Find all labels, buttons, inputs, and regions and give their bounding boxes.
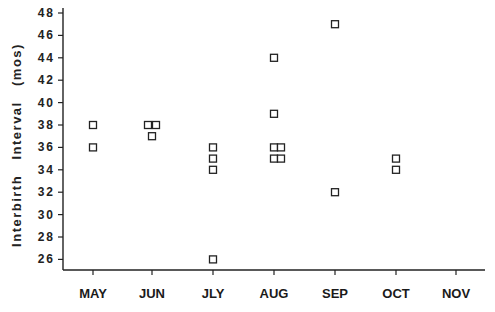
x-tick-label: SEP <box>322 286 348 301</box>
y-tick-label: 28 <box>38 230 55 244</box>
y-tick-label: 44 <box>38 51 55 65</box>
x-tick-label: JUN <box>139 286 165 301</box>
y-tick-label: 36 <box>38 140 55 154</box>
y-axis-title: Interbirth Interval (mos) <box>9 43 24 247</box>
y-tick-label: 48 <box>38 6 55 20</box>
data-point-square <box>393 166 400 173</box>
x-tick-label: NOV <box>442 286 471 301</box>
y-tick-label: 30 <box>38 208 55 222</box>
data-point-square <box>149 133 156 140</box>
data-point-square <box>210 155 217 162</box>
x-tick-label: OCT <box>382 286 410 301</box>
x-tick-label: MAY <box>79 286 107 301</box>
y-tick-label: 34 <box>38 163 55 177</box>
data-point-square <box>271 54 278 61</box>
y-axis: 262830323436384042444648 <box>38 6 63 270</box>
data-point-square <box>332 21 339 28</box>
y-tick-label: 46 <box>38 28 55 42</box>
data-point-square <box>210 166 217 173</box>
x-axis: MAYJUNJLYAUGSEPOCTNOV <box>63 270 485 301</box>
y-tick-label: 40 <box>38 96 55 110</box>
data-point-square <box>393 155 400 162</box>
data-point-square <box>271 155 278 162</box>
data-point-square <box>278 155 285 162</box>
data-point-square <box>153 122 160 129</box>
data-point-square <box>90 144 97 151</box>
data-point-square <box>278 144 285 151</box>
data-points <box>90 21 400 263</box>
y-tick-label: 38 <box>38 118 55 132</box>
y-tick-label: 42 <box>38 73 55 87</box>
data-point-square <box>271 144 278 151</box>
x-tick-label: AUG <box>260 286 289 301</box>
y-tick-label: 26 <box>38 252 55 266</box>
scatter-chart: 262830323436384042444648 MAYJUNJLYAUGSEP… <box>0 0 495 312</box>
data-point-square <box>145 122 152 129</box>
data-point-square <box>210 144 217 151</box>
x-tick-label: JLY <box>202 286 225 301</box>
y-tick-label: 32 <box>38 185 55 199</box>
data-point-square <box>210 256 217 263</box>
data-point-square <box>271 110 278 117</box>
data-point-square <box>90 122 97 129</box>
data-point-square <box>332 189 339 196</box>
